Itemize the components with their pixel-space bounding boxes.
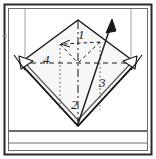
origami-diagram: 1 2 3 4 — [0, 0, 156, 159]
diagram-canvas — [0, 0, 156, 159]
fold-label-4: 4 — [43, 53, 50, 66]
fold-label-1: 1 — [78, 28, 85, 41]
fold-label-3: 3 — [99, 76, 106, 89]
fold-label-2: 2 — [71, 98, 78, 111]
